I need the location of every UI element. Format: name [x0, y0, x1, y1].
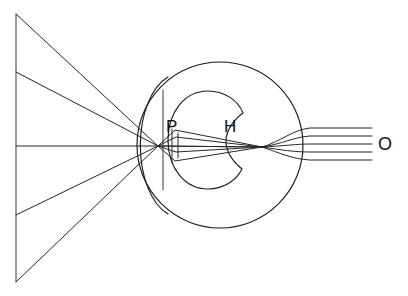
exit-ray-4	[262, 147, 372, 152]
incoming-ray-5	[16, 146, 158, 282]
eye-globe-group	[137, 62, 303, 228]
label-image-point: O	[378, 134, 392, 154]
incoming-ray-1	[16, 14, 158, 146]
exit-ray-bundle	[262, 128, 372, 160]
optics-diagram: P H O	[0, 0, 408, 296]
incoming-ray-4	[16, 146, 158, 215]
label-pupil: P	[166, 117, 177, 136]
exit-ray-3	[262, 144, 372, 147]
exit-ray-2	[262, 136, 372, 147]
eye-globe-outline	[137, 62, 303, 228]
internal-ray-dup	[158, 146, 262, 147]
internal-ray-upper-2	[158, 137, 262, 147]
label-lens: H	[224, 117, 236, 136]
incoming-ray-2	[16, 72, 158, 146]
optics-svg-canvas: P H O	[0, 0, 408, 296]
